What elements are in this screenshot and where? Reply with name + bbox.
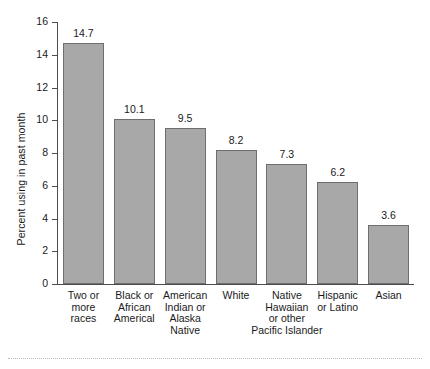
- x-axis-category-line: or Latino: [295, 302, 381, 314]
- y-axis-tick-mark: [52, 153, 57, 154]
- bar-column: 8.2: [216, 22, 257, 284]
- bar: [114, 119, 155, 284]
- y-axis-tick-label: 14: [36, 49, 48, 60]
- bar-column: 9.5: [165, 22, 206, 284]
- bar: [165, 128, 206, 284]
- x-axis-category-label: Asian: [346, 290, 430, 302]
- x-axis-labels: Two ormoreracesBlack orAfricanAmericalAm…: [58, 290, 414, 350]
- bar-column: 7.3: [266, 22, 307, 284]
- bar-column: 10.1: [114, 22, 155, 284]
- y-axis-tick-label: 12: [36, 82, 48, 93]
- bar-value-label: 7.3: [280, 149, 295, 160]
- bar-value-label: 14.7: [73, 28, 93, 39]
- y-axis-tick-mark: [52, 22, 57, 23]
- bar-value-label: 8.2: [229, 135, 244, 146]
- bar-column: 14.7: [63, 22, 104, 284]
- y-axis-tick-mark: [52, 251, 57, 252]
- x-axis-line: [57, 284, 414, 285]
- y-axis-tick-label: 6: [42, 180, 48, 191]
- bar-column: 3.6: [368, 22, 409, 284]
- y-axis-tick-label: 2: [42, 245, 48, 256]
- y-axis-title: Percent using in past month: [14, 34, 28, 324]
- y-axis-tick-mark: [52, 88, 57, 89]
- plot-area: 14.710.19.58.27.36.23.6: [58, 22, 414, 284]
- x-axis-category-line: Pacific Islander: [244, 325, 330, 337]
- y-axis-tick-label: 0: [42, 278, 48, 289]
- bar: [63, 43, 104, 284]
- bar-value-label: 6.2: [330, 167, 345, 178]
- y-axis-tick-mark: [52, 284, 57, 285]
- bar-value-label: 3.6: [381, 210, 396, 221]
- y-axis-tick-label: 10: [36, 114, 48, 125]
- x-axis-category-line: Native: [142, 325, 228, 337]
- bar-value-label: 10.1: [124, 104, 144, 115]
- bar: [266, 164, 307, 284]
- y-axis-tick-label: 16: [36, 16, 48, 27]
- y-axis-tick-mark: [52, 120, 57, 121]
- bar: [368, 225, 409, 284]
- y-axis-tick-mark: [52, 186, 57, 187]
- bar-column: 6.2: [317, 22, 358, 284]
- y-axis-tick-mark: [52, 55, 57, 56]
- y-axis-tick-mark: [52, 219, 57, 220]
- bottom-divider: [8, 358, 422, 360]
- bar: [216, 150, 257, 284]
- bar-value-label: 9.5: [178, 113, 193, 124]
- y-axis-tick-label: 8: [42, 147, 48, 158]
- y-axis-tick-label: 4: [42, 213, 48, 224]
- bar: [317, 182, 358, 284]
- x-axis-category-line: Asian: [346, 290, 430, 302]
- bar-chart: Percent using in past month 024681012141…: [0, 0, 430, 369]
